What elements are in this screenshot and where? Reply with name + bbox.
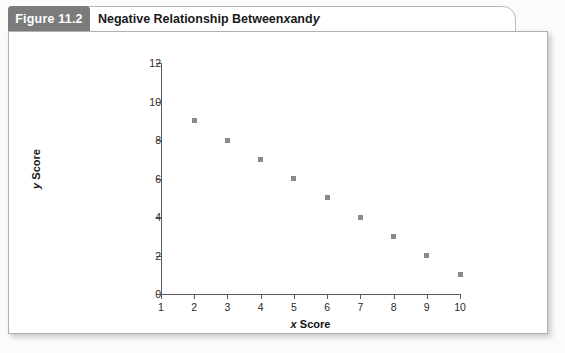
scatter-plot: 024681012 12345678910 y Score x Score: [9, 32, 549, 335]
x-axis-tick-label: 9: [412, 302, 442, 313]
y-axis-title-word: Score: [30, 149, 42, 183]
y-axis-title-var: y: [30, 183, 42, 189]
data-point: [458, 272, 463, 277]
y-axis-tick-label-wrap: 6: [121, 179, 161, 180]
y-axis-tick-label-wrap: 0: [121, 294, 161, 295]
y-axis-tick-label-wrap: 10: [121, 102, 161, 103]
y-axis-tick-label: 8: [133, 135, 161, 146]
y-axis-tick-label: 12: [133, 58, 161, 69]
x-axis-tick: [227, 294, 228, 299]
figure-title-middle: and: [290, 12, 312, 26]
x-axis-tick-label: 6: [312, 302, 342, 313]
x-axis-tick: [161, 294, 162, 299]
figure-number-tab: Figure 11.2: [8, 6, 90, 32]
x-axis-title-word: Score: [297, 318, 331, 330]
y-axis-tick-label: 2: [133, 251, 161, 262]
x-axis-line: [161, 294, 460, 295]
figure-title-var-y: y: [313, 12, 320, 26]
x-axis-title: x Score: [161, 318, 460, 330]
x-axis-tick: [294, 294, 295, 299]
x-axis-tick: [360, 294, 361, 299]
figure-title-prefix: Negative Relationship Between: [98, 12, 283, 26]
x-axis-tick-label: 5: [279, 302, 309, 313]
figure-number-label: Figure 11.2: [15, 12, 83, 26]
figure-title: Negative Relationship Between x and y: [98, 6, 320, 32]
data-point: [358, 215, 363, 220]
y-axis-title: y Score: [30, 114, 42, 224]
data-point: [291, 176, 296, 181]
x-axis-tick: [194, 294, 195, 299]
y-axis-tick-label-wrap: 8: [121, 140, 161, 141]
y-axis-line: [161, 63, 162, 294]
data-point: [424, 253, 429, 258]
y-axis-tick-label-wrap: 4: [121, 217, 161, 218]
data-point: [258, 157, 263, 162]
data-point: [325, 195, 330, 200]
x-axis-tick: [327, 294, 328, 299]
y-axis-tick-label: 0: [133, 289, 161, 300]
x-axis-tick-label: 4: [246, 302, 276, 313]
data-point: [391, 234, 396, 239]
x-axis-tick: [261, 294, 262, 299]
y-axis-tick-label: 4: [133, 212, 161, 223]
x-axis-tick-label: 2: [179, 302, 209, 313]
x-axis-tick: [394, 294, 395, 299]
x-axis-tick-label: 1: [146, 302, 176, 313]
x-axis-tick: [460, 294, 461, 299]
y-axis-tick-label: 6: [133, 174, 161, 185]
figure-title-var-x: x: [283, 12, 290, 26]
x-axis-tick-label: 10: [445, 302, 475, 313]
y-axis-tick-label: 10: [133, 97, 161, 108]
data-point: [192, 118, 197, 123]
data-point: [225, 138, 230, 143]
x-axis-tick-label: 7: [345, 302, 375, 313]
figure-card: 024681012 12345678910 y Score x Score: [8, 31, 548, 334]
x-axis-tick-label: 8: [379, 302, 409, 313]
x-axis-tick-label: 3: [212, 302, 242, 313]
page-background: Figure 11.2 Negative Relationship Betwee…: [0, 0, 565, 353]
x-axis-tick: [427, 294, 428, 299]
y-axis-tick-label-wrap: 12: [121, 63, 161, 64]
y-axis-tick-label-wrap: 2: [121, 256, 161, 257]
